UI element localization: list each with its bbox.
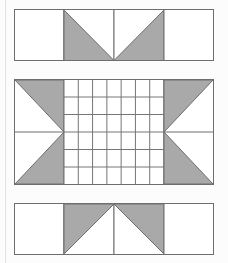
panel-bottom-band [14, 203, 214, 255]
middle-band-drawing [14, 79, 214, 185]
panel-top-band [14, 9, 214, 61]
bottom-band-drawing [14, 203, 214, 255]
top-cell-4 [164, 10, 214, 61]
bottom-cell-1 [15, 204, 65, 255]
panel-middle-band [14, 79, 214, 185]
bottom-cell-4 [164, 204, 214, 255]
page-margin-rule [5, 0, 6, 263]
figure-page [0, 0, 228, 263]
top-cell-1 [15, 10, 65, 61]
top-band-drawing [14, 9, 214, 61]
